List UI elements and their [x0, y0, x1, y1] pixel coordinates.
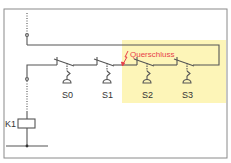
switch-label-s3: S3 [182, 90, 193, 100]
coil-k1 [18, 119, 35, 128]
circuit-diagram: Querschluss S0 S1 S2 S3 K1 [0, 0, 231, 163]
switch-s0 [54, 57, 74, 83]
ground-junction-dot [26, 145, 29, 148]
coil-label: K1 [5, 119, 16, 129]
switch-s1 [94, 57, 114, 83]
lower-bus-start [27, 65, 57, 77]
terminal-lower [26, 78, 29, 81]
terminal-top [26, 34, 29, 37]
switch-label-s2: S2 [142, 90, 153, 100]
switch-label-s0: S0 [62, 90, 73, 100]
fault-label: Querschluss [130, 50, 174, 59]
switch-label-s1: S1 [102, 90, 113, 100]
